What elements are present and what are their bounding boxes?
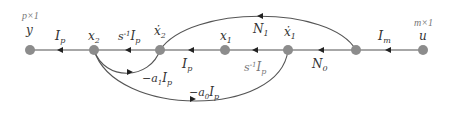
arrow-left-icon — [257, 13, 263, 19]
arrow-left-icon — [318, 47, 324, 53]
edge-label-Ip-y: Ip — [54, 28, 65, 45]
x1-label: x1 — [220, 29, 232, 45]
x2dot-label: ẋ2 — [154, 24, 166, 40]
edge-label-N0: N0 — [311, 57, 328, 73]
node-x2 — [89, 45, 99, 55]
arrow-right-icon — [127, 69, 133, 75]
y-dimension: p×1 — [21, 10, 39, 21]
edge-label-a0Ip: −a0Ip — [189, 85, 219, 101]
arrow-left-icon — [385, 47, 391, 53]
y-label: y — [25, 23, 33, 37]
signal-flow-graph: p×1 y m×1 u x2 ẋ2 x1 ẋ1 Ip s-1Ip Ip s-1I… — [0, 0, 455, 117]
edge-label-Ip-mid: Ip — [181, 56, 192, 73]
node-x2dot — [155, 45, 165, 55]
arrow-left-icon — [188, 47, 194, 53]
u-label: u — [419, 29, 427, 43]
node-u — [418, 45, 428, 55]
node-y — [25, 45, 35, 55]
edge-label-a1Ip: −a1Ip — [142, 71, 172, 87]
arrow-left-icon — [252, 47, 258, 53]
arrow-left-icon — [125, 47, 131, 53]
node-x1dot — [283, 45, 293, 55]
edge-label-Im: Im — [377, 28, 391, 45]
edge-label-s1Ip-2: s-1Ip — [244, 60, 266, 76]
u-dimension: m×1 — [414, 17, 433, 28]
x2-label: x2 — [88, 29, 100, 45]
arrow-left-icon — [57, 47, 63, 53]
edge-label-N1: N1 — [252, 22, 269, 38]
edge-label-s1Ip: s-1Ip — [118, 29, 140, 45]
x1dot-label: ẋ1 — [284, 25, 296, 41]
node-x1 — [220, 45, 230, 55]
node-input-branch — [351, 45, 361, 55]
